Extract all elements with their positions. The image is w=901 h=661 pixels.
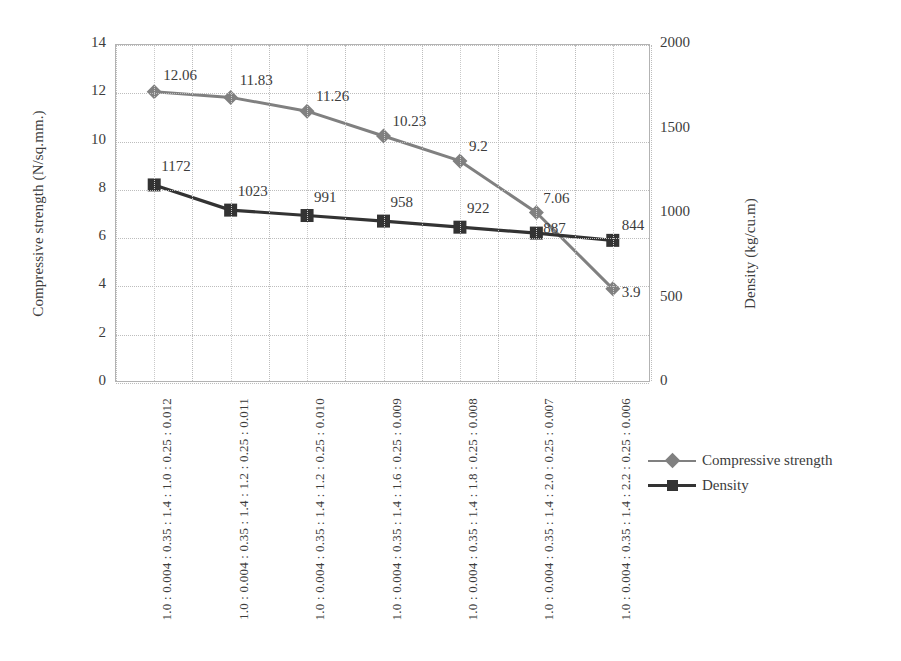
data-point-label: 1023	[238, 183, 268, 200]
y-tick-label-left: 14	[46, 34, 106, 51]
y-tick-label-left: 12	[46, 82, 106, 99]
y-tick-label-right: 1500	[660, 119, 720, 136]
legend-key-square-icon	[648, 478, 696, 494]
data-point-label: 922	[467, 200, 490, 217]
x-tick-label: 1.0 : 0.004 : 0.35 : 1.4 : 1.0 : 0.25 : …	[159, 398, 175, 620]
y-tick-label-left: 6	[46, 227, 106, 244]
gridline-vertical-minor	[536, 45, 537, 381]
legend-key-diamond-icon	[648, 453, 696, 469]
y-tick-label-left: 4	[46, 275, 106, 292]
y-axis-title-left: Compressive strength (N/sq.mm.)	[30, 84, 47, 344]
gridline-vertical-minor	[384, 45, 385, 381]
x-tick-label: 1.0 : 0.004 : 0.35 : 1.4 : 1.6 : 0.25 : …	[389, 398, 405, 620]
legend-item-compressive-strength[interactable]: Compressive strength	[648, 448, 832, 473]
x-tick-label: 1.0 : 0.004 : 0.35 : 1.4 : 1.8 : 0.25 : …	[465, 398, 481, 620]
legend-item-density[interactable]: Density	[648, 473, 832, 498]
y-axis-title-right: Density (kg/cu.m)	[742, 149, 759, 359]
gridline-vertical	[575, 45, 576, 381]
data-point-label: 11.83	[240, 72, 273, 89]
gridline-vertical	[116, 45, 117, 381]
data-point-label: 1172	[161, 158, 190, 175]
chart-legend: Compressive strength Density	[648, 448, 832, 498]
gridline-horizontal	[116, 142, 649, 143]
gridline-vertical	[498, 45, 499, 381]
gridline-vertical	[651, 45, 652, 381]
gridline-vertical	[192, 45, 193, 381]
y-tick-label-left: 8	[46, 179, 106, 196]
plot-area	[115, 44, 650, 382]
y-tick-label-right: 2000	[660, 34, 720, 51]
gridline-vertical-minor	[307, 45, 308, 381]
y-tick-label-left: 10	[46, 131, 106, 148]
data-point-label: 844	[622, 217, 645, 234]
y-tick-label-right: 1000	[660, 203, 720, 220]
data-point-label: 7.06	[543, 190, 569, 207]
data-point-label: 958	[391, 194, 414, 211]
gridline-vertical-minor	[154, 45, 155, 381]
gridline-vertical-minor	[613, 45, 614, 381]
gridline-horizontal	[116, 93, 649, 94]
y-tick-label-left: 2	[46, 324, 106, 341]
gridline-horizontal	[116, 335, 649, 336]
x-tick-label: 1.0 : 0.004 : 0.35 : 1.4 : 1.2 : 0.25 : …	[312, 398, 328, 620]
gridline-vertical-minor	[460, 45, 461, 381]
y-tick-label-right: 0	[660, 372, 720, 389]
y-tick-label-right: 500	[660, 288, 720, 305]
gridline-vertical	[269, 45, 270, 381]
gridline-horizontal	[116, 286, 649, 287]
y-tick-label-left: 0	[46, 372, 106, 389]
x-tick-label: 1.0 : 0.004 : 0.35 : 1.4 : 1.2 : 0.25 : …	[236, 398, 252, 620]
gridline-vertical	[422, 45, 423, 381]
data-point-label: 991	[314, 189, 337, 206]
gridline-horizontal	[116, 45, 649, 46]
gridline-horizontal	[116, 238, 649, 239]
legend-label: Compressive strength	[702, 452, 832, 469]
data-point-label: 11.26	[316, 88, 349, 105]
data-point-label: 12.06	[163, 67, 197, 84]
chart-container: Compressive strength (N/sq.mm.) Density …	[0, 0, 901, 661]
gridline-horizontal	[116, 383, 649, 384]
data-point-label: 887	[543, 220, 566, 237]
data-point-label: 9.2	[469, 138, 488, 155]
data-point-label: 3.9	[622, 284, 641, 301]
legend-label: Density	[702, 477, 749, 494]
x-tick-label: 1.0 : 0.004 : 0.35 : 1.4 : 2.2 : 0.25 : …	[618, 398, 634, 620]
data-point-label: 10.23	[393, 113, 427, 130]
gridline-vertical-minor	[231, 45, 232, 381]
x-tick-label: 1.0 : 0.004 : 0.35 : 1.4 : 2.0 : 0.25 : …	[541, 398, 557, 620]
